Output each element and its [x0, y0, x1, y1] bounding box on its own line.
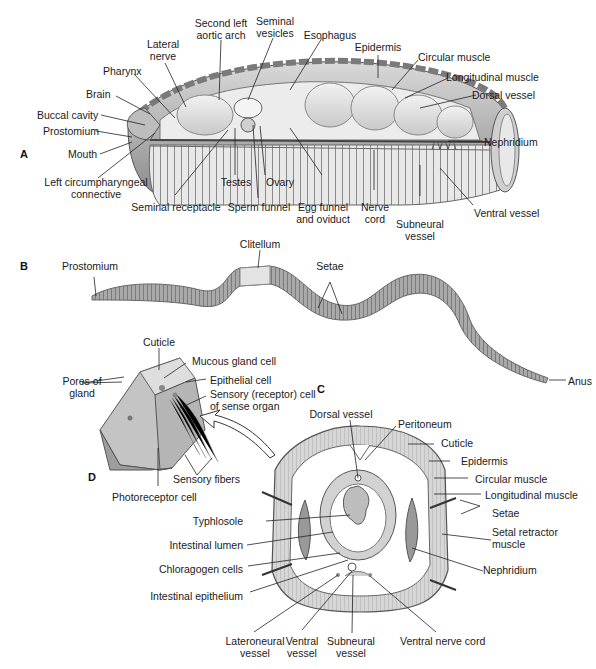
panel-c-artwork [247, 420, 491, 633]
label-lateroneural-vessel: Lateroneural vessel [226, 635, 285, 659]
label-brain: Brain [86, 88, 111, 100]
label-prostomium-a: Prostomium [43, 125, 99, 137]
label-seminal-vesicles: Seminal vesicles [256, 15, 294, 39]
label-seminal-receptacle: Seminal receptacle [131, 201, 220, 213]
label-subneural-vessel-a: Subneural vessel [396, 218, 444, 242]
label-dorsal-vessel: Dorsal vessel [472, 89, 535, 101]
label-egg-funnel-and-oviduct: Egg funnel and oviduct [296, 201, 350, 225]
label-chloragogen-cells: Chloragogen cells [159, 563, 243, 575]
label-cuticle-d: Cuticle [143, 336, 175, 348]
label-longitudinal-muscle-c: Longitudinal muscle [485, 489, 578, 501]
label-epithelial-cell: Epithelial cell [210, 374, 271, 386]
label-epidermis: Epidermis [355, 41, 402, 53]
label-intestinal-epithelium: Intestinal epithelium [150, 590, 243, 602]
label-mouth: Mouth [68, 148, 97, 160]
label-lateral-nerve: Lateral nerve [147, 38, 179, 62]
label-ovary: Ovary [266, 176, 294, 188]
label-setae-b: Setae [316, 260, 343, 272]
label-setal-retractor-muscle: Setal retractor muscle [492, 526, 558, 550]
label-subneural-vessel-c: Subneural vessel [327, 635, 375, 659]
label-setae-c: Setae [492, 507, 519, 519]
label-nephridium-c: Nephridium [483, 564, 537, 576]
label-testes: Testes [221, 176, 251, 188]
label-longitudinal-muscle: Longitudinal muscle [446, 71, 539, 83]
panel-a-artwork [96, 38, 519, 205]
panel-letter-a: A [20, 148, 28, 160]
label-mucous-gland-cell: Mucous gland cell [192, 355, 276, 367]
label-sensory-fibers: Sensory fibers [173, 473, 240, 485]
label-intestinal-lumen: Intestinal lumen [169, 539, 243, 551]
label-nephridium-a: Nephridium [484, 136, 538, 148]
label-pores-of-gland: Pores of gland [62, 375, 101, 399]
label-typhlosole: Typhlosole [193, 515, 243, 527]
label-second-left-aortic-arch: Second left aortic arch [195, 17, 248, 41]
panel-letter-b: B [20, 260, 28, 272]
label-circular-muscle: Circular muscle [418, 51, 490, 63]
label-peritoneum: Peritoneum [398, 418, 452, 430]
label-clitellum: Clitellum [240, 238, 280, 250]
panel-letter-d: D [88, 471, 96, 483]
label-left-circumpharyngeal-connective: Left circumpharyngeal connective [44, 176, 147, 200]
label-cuticle-c: Cuticle [441, 437, 473, 449]
label-anus: Anus [568, 375, 592, 387]
panel-d-artwork [82, 348, 275, 486]
label-circular-muscle-c: Circular muscle [475, 473, 547, 485]
label-nerve-cord: Nerve cord [361, 201, 389, 225]
label-photoreceptor-cell: Photoreceptor cell [112, 491, 197, 503]
label-dorsal-vessel-c: Dorsal vessel [309, 408, 372, 420]
label-ventral-vessel-c: Ventral vessel [286, 635, 319, 659]
label-epidermis-c: Epidermis [461, 455, 508, 467]
label-ventral-vessel-a: Ventral vessel [474, 207, 539, 219]
label-ventral-nerve-cord: Ventral nerve cord [400, 635, 485, 647]
label-buccal-cavity: Buccal cavity [37, 109, 98, 121]
earthworm-anatomy-figure: A B C D Second left aortic arch Seminal … [0, 0, 596, 669]
label-prostomium-b: Prostomium [62, 260, 118, 272]
label-esophagus: Esophagus [304, 29, 357, 41]
panel-letter-c: C [317, 383, 325, 395]
label-pharynx: Pharynx [103, 65, 142, 77]
label-sensory-receptor-cell: Sensory (receptor) cell of sense organ [210, 388, 316, 412]
label-sperm-funnel: Sperm funnel [228, 201, 290, 213]
